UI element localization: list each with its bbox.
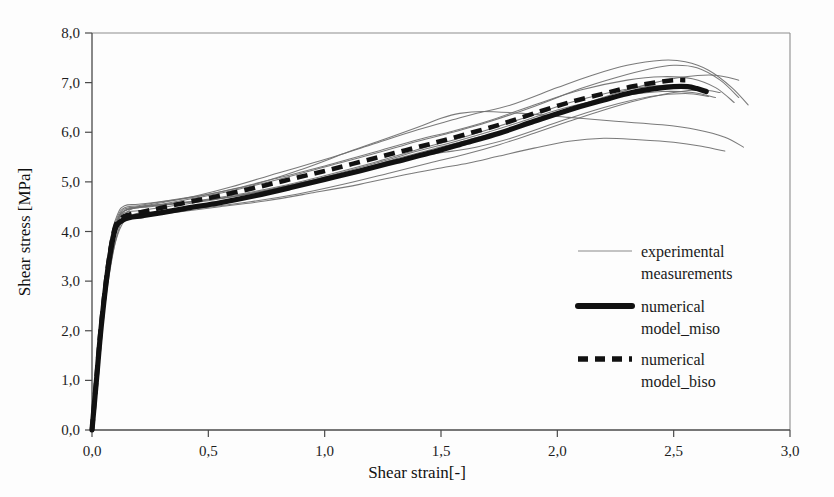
y-tick-label: 8,0 [61,25,80,41]
legend-label-biso-line2: model_biso [641,373,716,390]
x-tick-label: 0,5 [199,443,218,459]
y-tick-label: 5,0 [61,174,80,190]
y-tick-label: 6,0 [61,124,80,140]
x-tick-label: 0,0 [83,443,102,459]
x-tick-label: 2,5 [664,443,683,459]
y-axis-title: Shear stress [MPa] [15,168,34,296]
y-tick-label: 4,0 [61,224,80,240]
legend-label-miso-line1: numerical [641,298,706,315]
legend-label-miso-line2: model_miso [641,320,720,337]
y-tick-label: 7,0 [61,75,80,91]
x-tick-label: 1,0 [315,443,334,459]
legend-label-experimental-line2: measurements [641,265,733,282]
y-tick-label: 0,0 [61,422,80,438]
x-tick-label: 2,0 [548,443,567,459]
chart-figure: 0,01,02,03,04,05,06,07,08,0 0,00,51,01,5… [0,0,834,497]
legend-label-biso-line1: numerical [641,351,706,368]
x-axis-title: Shear strain[-] [368,463,466,482]
y-tick-label: 2,0 [61,323,80,339]
legend-label-experimental-line1: experimental [641,243,725,261]
x-tick-label: 1,5 [432,443,451,459]
x-tick-label: 3,0 [781,443,800,459]
shear-stress-strain-chart: 0,01,02,03,04,05,06,07,08,0 0,00,51,01,5… [0,0,834,497]
y-tick-label: 1,0 [61,372,80,388]
y-tick-label: 3,0 [61,273,80,289]
